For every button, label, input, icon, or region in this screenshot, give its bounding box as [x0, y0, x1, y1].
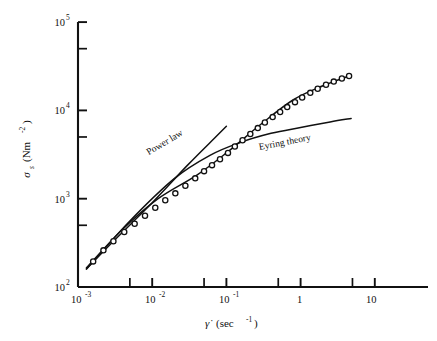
eyring-theory-curve: [86, 118, 351, 269]
x-tick-label: 10 -2: [145, 290, 165, 305]
data-point-marker: [209, 163, 214, 168]
y-tick-label-exponent: 3: [66, 190, 70, 199]
x-tick-label-mantissa: 10: [71, 294, 82, 305]
data-point-marker: [292, 100, 297, 105]
x-tick-label-mantissa: 1: [297, 294, 302, 305]
x-tick-label: 10: [366, 294, 377, 305]
x-tick-label-exponent: -1: [233, 290, 239, 299]
y-axis-title-symbol: σ: [20, 172, 32, 178]
data-point-marker: [300, 95, 305, 100]
data-point-marker: [101, 248, 106, 253]
data-point-marker: [201, 169, 206, 174]
data-fit-curve: [86, 75, 351, 268]
x-tick-label: 10 -1: [219, 290, 239, 305]
data-point-marker: [122, 229, 127, 234]
data-point-marker: [91, 259, 96, 264]
x-axis-title-units: (sec: [216, 317, 234, 330]
data-point-marker: [285, 105, 290, 110]
y-tick-label-mantissa: 10: [55, 105, 66, 116]
data-point-marker: [323, 82, 328, 87]
y-tick-label: 10 4: [55, 101, 71, 116]
y-tick-label-mantissa: 10: [55, 17, 66, 28]
data-point-marker: [163, 198, 168, 203]
data-point-marker: [193, 176, 198, 181]
data-point-marker: [255, 126, 260, 131]
log-log-plot: 10 5 10 4 10 3 10 2 10 -3 10 -2: [0, 0, 437, 341]
data-point-marker: [339, 76, 344, 81]
data-point-marker: [331, 79, 336, 84]
data-point-marker: [232, 144, 237, 149]
x-axis-title: γ̇ (sec -1 ): [205, 315, 258, 330]
data-point-marker: [270, 114, 275, 119]
y-tick-label-exponent: 2: [66, 278, 70, 287]
x-tick-label: 10 -3: [71, 290, 91, 305]
y-axis-title-subscript: s: [27, 166, 36, 169]
y-axis-ticks: [78, 22, 87, 287]
data-point-marker: [153, 205, 158, 210]
figure-container: 10 5 10 4 10 3 10 2 10 -3 10 -2: [0, 0, 437, 341]
axis-lines: [78, 22, 428, 287]
x-tick-label-mantissa: 10: [145, 294, 156, 305]
y-tick-label-mantissa: 10: [55, 194, 66, 205]
data-point-marker: [278, 109, 283, 114]
x-axis-title-units-exponent: -1: [246, 315, 252, 324]
data-point-marker: [248, 131, 253, 136]
x-axis-title-units-close: ): [254, 317, 258, 330]
y-axis-title-units-close: ): [20, 120, 33, 124]
data-point-marker: [132, 221, 137, 226]
y-axis-tick-labels: 10 5 10 4 10 3 10 2: [55, 13, 71, 293]
x-axis-ticks: [130, 278, 375, 287]
x-axis-title-symbol: γ̇: [205, 317, 213, 329]
curves: [86, 75, 351, 269]
x-axis-tick-labels: 10 -3 10 -2 10 -1 1 10: [71, 290, 377, 305]
data-point-marker: [173, 191, 178, 196]
power-law-label: Power law: [145, 128, 185, 157]
data-point-marker: [142, 213, 147, 218]
x-tick-label: 1: [297, 294, 302, 305]
data-point-marker: [240, 138, 245, 143]
data-point-markers: [91, 73, 352, 264]
data-point-marker: [225, 150, 230, 155]
y-tick-label: 10 3: [55, 190, 71, 205]
data-point-marker: [308, 90, 313, 95]
y-tick-label-exponent: 5: [66, 13, 70, 22]
y-axis-title-units-exponent: -2: [18, 127, 27, 133]
x-tick-label-exponent: -3: [85, 290, 91, 299]
y-axis-title-units: (Nm: [20, 141, 33, 162]
x-tick-label-mantissa: 10: [219, 294, 230, 305]
y-tick-label-mantissa: 10: [55, 282, 66, 293]
data-point-marker: [111, 239, 116, 244]
y-axis-title: σ s (Nm -2 ): [18, 120, 36, 178]
y-tick-label: 10 5: [55, 13, 71, 28]
data-point-marker: [346, 73, 351, 78]
data-point-marker: [217, 157, 222, 162]
y-tick-label: 10 2: [55, 278, 71, 293]
data-point-marker: [315, 86, 320, 91]
x-tick-label-mantissa: 10: [366, 294, 377, 305]
data-point-marker: [183, 183, 188, 188]
y-tick-label-exponent: 4: [66, 101, 70, 110]
data-point-marker: [262, 120, 267, 125]
x-tick-label-exponent: -2: [159, 290, 165, 299]
